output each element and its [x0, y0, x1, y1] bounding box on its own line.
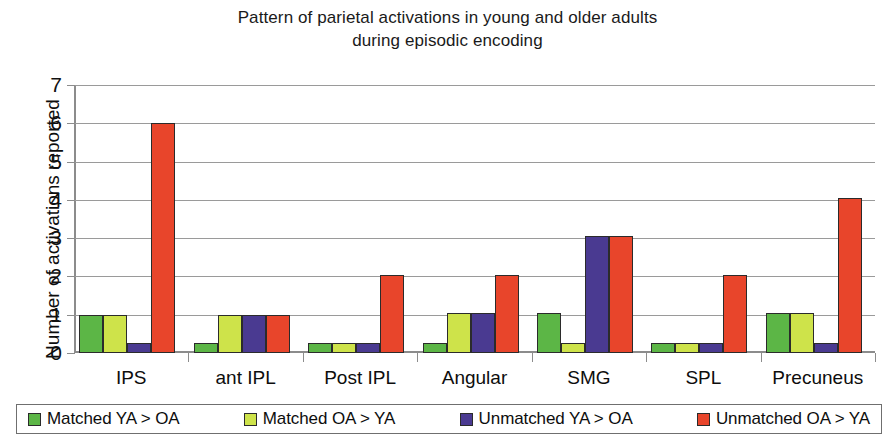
y-axis-tick-label: 3 [50, 226, 62, 250]
chart-legend: Matched YA > OA Matched OA > YA Unmatche… [16, 404, 882, 434]
bar[interactable] [675, 343, 699, 353]
y-axis-tick-label: 2 [50, 264, 62, 288]
bar[interactable] [609, 236, 633, 353]
gridline [74, 238, 875, 239]
legend-swatch-icon [244, 413, 257, 426]
x-axis-tick-label: Angular [442, 367, 508, 389]
x-axis-tick-label: SPL [685, 367, 721, 389]
bar[interactable] [561, 343, 585, 353]
y-axis-tick [67, 315, 75, 316]
bar[interactable] [723, 275, 747, 353]
y-axis-tick-label: 5 [50, 150, 62, 174]
legend-item[interactable]: Matched OA > YA [244, 409, 396, 429]
gridline [74, 200, 875, 201]
y-axis-tick-label: 0 [50, 341, 62, 365]
bar[interactable] [151, 123, 175, 353]
y-axis-tick-label: 7 [50, 73, 62, 97]
legend-swatch-icon [697, 413, 710, 426]
bar[interactable] [447, 313, 471, 353]
bar[interactable] [651, 343, 675, 353]
legend-item-label: Unmatched YA > OA [479, 409, 633, 429]
bar[interactable] [790, 313, 814, 353]
y-axis-tick-label: 4 [50, 188, 62, 212]
legend-item[interactable]: Unmatched YA > OA [460, 409, 633, 429]
y-axis-tick [67, 276, 75, 277]
plot-area: 01234567 IPSant IPLPost IPLAngularSMGSPL… [74, 85, 875, 353]
x-axis-tick [188, 353, 189, 362]
legend-item[interactable]: Unmatched OA > YA [697, 409, 870, 429]
y-axis-tick [67, 162, 75, 163]
legend-swatch-icon [460, 413, 473, 426]
x-axis-tick [761, 353, 762, 362]
bar-chart-figure: Pattern of parietal activations in young… [0, 0, 895, 436]
bar[interactable] [194, 343, 218, 353]
bar[interactable] [699, 343, 723, 353]
gridline [74, 276, 875, 277]
bar[interactable] [766, 313, 790, 353]
y-axis-tick [67, 353, 75, 354]
y-axis-tick [67, 238, 75, 239]
bar[interactable] [332, 343, 356, 353]
legend-item-label: Matched YA > OA [47, 409, 180, 429]
y-axis-tick [67, 85, 75, 86]
y-axis-tick-label: 1 [50, 303, 62, 327]
x-axis-tick [532, 353, 533, 362]
x-axis-tick-label: IPS [116, 367, 147, 389]
bar[interactable] [127, 343, 151, 353]
bar[interactable] [423, 343, 447, 353]
bar[interactable] [537, 313, 561, 353]
x-axis-tick-label: Post IPL [324, 367, 396, 389]
x-axis-tick [417, 353, 418, 362]
y-axis-tick-label: 6 [50, 111, 62, 135]
x-axis-tick [646, 353, 647, 362]
bar[interactable] [242, 315, 266, 353]
bar[interactable] [103, 315, 127, 353]
bar[interactable] [471, 313, 495, 353]
legend-item[interactable]: Matched YA > OA [28, 409, 180, 429]
bar[interactable] [218, 315, 242, 353]
bar[interactable] [585, 236, 609, 353]
bar[interactable] [266, 315, 290, 353]
bar[interactable] [356, 343, 380, 353]
bar[interactable] [380, 275, 404, 353]
legend-item-label: Matched OA > YA [263, 409, 396, 429]
bar[interactable] [79, 315, 103, 353]
x-axis-tick [875, 353, 876, 362]
x-axis-tick-label: Precuneus [772, 367, 863, 389]
x-axis-tick-label: ant IPL [216, 367, 276, 389]
gridline [74, 123, 875, 124]
legend-swatch-icon [28, 413, 41, 426]
bar[interactable] [495, 275, 519, 353]
x-axis-tick-label: SMG [567, 367, 610, 389]
x-axis-tick [303, 353, 304, 362]
bar[interactable] [308, 343, 332, 353]
y-axis-tick [67, 200, 75, 201]
gridline [74, 162, 875, 163]
chart-title: Pattern of parietal activations in young… [0, 6, 895, 52]
y-axis-tick [67, 123, 75, 124]
bar[interactable] [838, 198, 862, 353]
bar[interactable] [814, 343, 838, 353]
legend-item-label: Unmatched OA > YA [716, 409, 870, 429]
gridline [74, 85, 875, 86]
